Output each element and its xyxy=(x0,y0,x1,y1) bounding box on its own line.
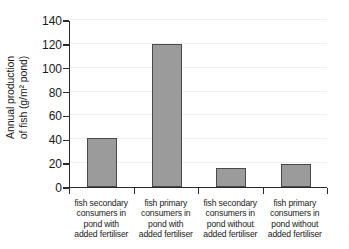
x-axis-category-line: added fertiliser xyxy=(70,229,133,239)
x-axis-labels: fish secondaryconsumers inpond withadded… xyxy=(69,198,327,248)
y-tick-label: 40 xyxy=(18,134,62,146)
x-axis-category-label: fish primaryconsumers inpond withadded f… xyxy=(134,198,199,248)
x-tick-mark xyxy=(134,188,135,194)
bar xyxy=(152,44,182,187)
bar-chart: Annual production of fish (g/m² pond) 02… xyxy=(0,0,349,249)
y-tick-label: 0 xyxy=(18,182,62,194)
y-tick-label: 20 xyxy=(18,158,62,170)
x-tick-mark xyxy=(263,188,264,194)
x-axis-category-line: added fertiliser xyxy=(264,229,327,239)
bar xyxy=(87,138,117,187)
x-axis-category-label: fish secondaryconsumers inpond withoutad… xyxy=(198,198,263,248)
y-axis-title-line-1: Annual production xyxy=(5,56,18,139)
x-tick-mark xyxy=(327,188,328,194)
y-tick-label: 100 xyxy=(18,63,62,75)
x-axis-category-line: pond without xyxy=(264,219,327,229)
x-axis-category-line: pond without xyxy=(199,219,262,229)
x-axis-category-line: fish secondary xyxy=(199,198,262,208)
x-axis-category-label: fish primaryconsumers inpond withoutadde… xyxy=(263,198,328,248)
x-axis-category-line: pond with xyxy=(135,219,198,229)
x-tick-mark xyxy=(69,188,70,194)
x-axis-category-line: added fertiliser xyxy=(135,229,198,239)
y-tick-label: 80 xyxy=(18,87,62,99)
bar xyxy=(216,168,246,187)
x-axis-category-line: consumers in xyxy=(264,208,327,218)
x-tick-mark xyxy=(198,188,199,194)
x-axis-category-line: consumers in xyxy=(199,208,262,218)
x-axis-category-line: fish secondary xyxy=(70,198,133,208)
plot-area xyxy=(69,21,327,188)
x-axis-category-line: fish primary xyxy=(264,198,327,208)
y-tick-label: 140 xyxy=(18,15,62,27)
x-axis-category-label: fish secondaryconsumers inpond withadded… xyxy=(69,198,134,248)
y-tick-label: 60 xyxy=(18,110,62,122)
x-axis-category-line: pond with xyxy=(70,219,133,229)
y-tick-label: 120 xyxy=(18,39,62,51)
gridline xyxy=(70,114,327,115)
gridline xyxy=(70,91,327,92)
x-axis-category-line: consumers in xyxy=(135,208,198,218)
gridline xyxy=(70,19,327,20)
x-axis-category-line: consumers in xyxy=(70,208,133,218)
x-axis-category-line: fish primary xyxy=(135,198,198,208)
gridline xyxy=(70,67,327,68)
bar xyxy=(281,164,311,187)
x-axis-category-line: added fertiliser xyxy=(199,229,262,239)
gridline xyxy=(70,43,327,44)
